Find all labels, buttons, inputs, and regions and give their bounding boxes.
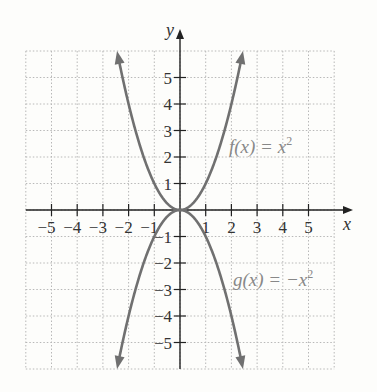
x-tick-label: −5 [37, 218, 55, 237]
y-tick-label: −5 [154, 334, 172, 353]
y-tick-label: −4 [154, 307, 173, 326]
x-tick-label: −3 [89, 218, 107, 237]
x-tick-label: 4 [279, 218, 288, 237]
y-tick-label: −2 [154, 254, 172, 273]
x-tick-label: −4 [63, 218, 82, 237]
x-tick-label: 3 [253, 218, 262, 237]
x-tick-label: 2 [227, 218, 236, 237]
y-tick-label: 1 [164, 175, 173, 194]
x-axis-arrow-icon [343, 206, 353, 214]
f-curve-arrow-icon [115, 51, 125, 65]
y-tick-label: 4 [164, 95, 173, 114]
g-label-exponent: 2 [307, 267, 313, 281]
y-tick-label: 2 [164, 148, 173, 167]
x-tick-label: 5 [304, 218, 313, 237]
f-curve-arrow-icon [235, 51, 245, 65]
x-tick-label: −2 [115, 218, 133, 237]
y-tick-label: −3 [154, 281, 172, 300]
x-axis-label: x [342, 214, 351, 234]
g-curve-arrow-icon [115, 355, 125, 369]
y-tick-label: 3 [164, 122, 173, 141]
f-function-label: f(x) = x2 [229, 134, 292, 158]
f-label-main: f(x) = x [229, 136, 287, 158]
y-axis-label: y [164, 20, 174, 40]
g-label-main: g(x) = −x [233, 269, 308, 291]
g-curve-arrow-icon [235, 355, 245, 369]
y-axis-arrow-icon [176, 29, 184, 39]
g-function-label: g(x) = −x2 [233, 267, 313, 291]
y-tick-label: 5 [164, 69, 173, 88]
axes [26, 29, 353, 369]
function-graph: −5−4−3−2−112345−5−4−3−2−112345 y x f(x) … [0, 0, 377, 392]
f-label-exponent: 2 [286, 134, 292, 148]
